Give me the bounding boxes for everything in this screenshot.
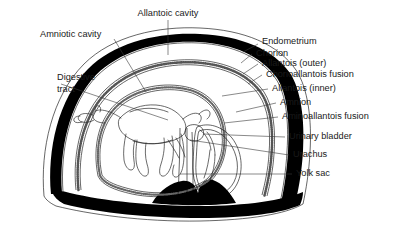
label-allantoic-cavity: Allantoic cavity [138,8,199,18]
label-yolk-sac: Yolk sac [296,168,330,178]
label-allantois-inner: Allantois (inner) [272,83,336,93]
diagram-canvas: Allantoic cavity Amniotic cavity Digesti… [0,0,401,244]
label-urinary-bladder: Urinary bladder [289,131,352,141]
label-chorion: Chorion [256,48,288,58]
label-digestive-tract-line1: Digestive [57,72,95,82]
label-endometrium: Endometrium [262,36,317,46]
anatomical-diagram: Allantoic cavity Amniotic cavity Digesti… [0,0,401,244]
label-amnion: Amnion [280,97,311,107]
label-digestive-tract-line2: tract [57,84,75,94]
label-chorioallantois-fusion: Chorioallantois fusion [266,69,354,79]
label-amniotic-cavity: Amniotic cavity [40,29,102,39]
label-aminoallantois-fusion: Aminoallantois fusion [282,111,369,121]
label-allantois-outer: Allantois (outer) [262,58,326,68]
label-urachus: Urachus [293,149,328,159]
